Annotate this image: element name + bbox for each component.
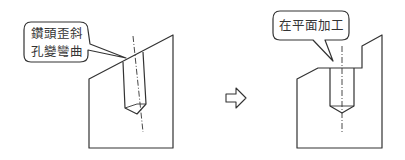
right-arrow-icon xyxy=(226,88,246,108)
left-callout-text-1: 鑽頭歪斜 xyxy=(31,25,83,42)
left-callout-text-2: 孔變彎曲 xyxy=(31,43,83,60)
diagram-canvas xyxy=(0,0,405,160)
right-workpiece xyxy=(297,35,382,148)
right-callout-text: 在平面加工 xyxy=(279,17,344,34)
left-centerline xyxy=(133,36,143,132)
